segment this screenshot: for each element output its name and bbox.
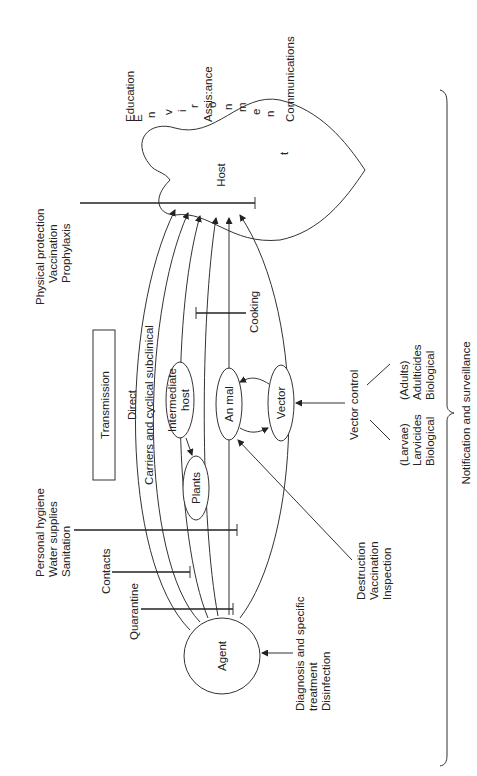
- svg-text:Personal hygiene: Personal hygiene: [34, 488, 46, 577]
- agent-label: Agent: [216, 640, 228, 671]
- cooking-label: Cooking: [248, 291, 260, 333]
- svg-text:(Larvae): (Larvae): [398, 423, 410, 466]
- svg-text:Larvicides: Larvicides: [411, 414, 423, 466]
- svg-text:Biological: Biological: [424, 417, 436, 466]
- vector-label: Vector: [275, 387, 287, 420]
- svg-text:Prophylaxis: Prophylaxis: [60, 223, 72, 283]
- communications-label: Communications: [284, 36, 296, 122]
- svg-text:Sanitation: Sanitation: [60, 526, 72, 577]
- svg-text:Physical protection: Physical protection: [34, 208, 46, 305]
- transmission-paths: [135, 210, 288, 630]
- svg-text:Vaccination: Vaccination: [47, 224, 59, 283]
- svg-text:treatment: treatment: [307, 662, 319, 711]
- svg-text:Destruction: Destruction: [355, 542, 367, 600]
- vector-control-label: Vector control: [348, 370, 360, 440]
- quarantine-label: Quarantine: [128, 583, 140, 640]
- svg-text:Vaccination: Vaccination: [368, 541, 380, 600]
- plants-label: Plants: [190, 472, 202, 504]
- svg-text:n: n: [264, 111, 276, 117]
- personal-hygiene-labels: Personal hygiene Water supplies Sanitati…: [34, 488, 72, 577]
- contacts-label: Contacts: [100, 548, 112, 594]
- transmission-diagram: Host E n v i r o n m e n t Education Ass…: [0, 0, 477, 776]
- diagram-canvas: Host E n v i r o n m e n t Education Ass…: [0, 0, 477, 776]
- svg-text:e: e: [250, 109, 262, 115]
- svg-text:(Adults): (Adults): [398, 360, 410, 400]
- svg-text:n: n: [145, 112, 157, 118]
- svg-text:Inspection: Inspection: [381, 548, 393, 600]
- education-label: Education: [124, 71, 136, 122]
- svg-text:m: m: [236, 102, 248, 112]
- host-shape: [142, 99, 365, 240]
- physical-protection-labels: Physical protection Vaccination Prophyla…: [34, 208, 72, 305]
- assistance-label: Assis:ance: [202, 66, 214, 122]
- svg-text:Water supplies: Water supplies: [47, 501, 59, 577]
- animal-label: An mal: [223, 386, 235, 422]
- adults-labels: (Adults) Adulticides Biological: [398, 344, 436, 400]
- notification-label: Notification and surveillance: [460, 341, 472, 484]
- notification-brace: [440, 90, 454, 766]
- agent-measures-labels: Diagnosis and specific treatment Disinfe…: [294, 596, 332, 711]
- svg-text:Adulticides: Adulticides: [411, 344, 423, 400]
- svg-text:v: v: [162, 109, 174, 115]
- transmission-label: Transmission: [99, 371, 111, 439]
- svg-text:n: n: [222, 104, 234, 110]
- svg-text:r: r: [188, 104, 200, 108]
- svg-text:Disinfection: Disinfection: [320, 652, 332, 711]
- svg-text:Biological: Biological: [424, 351, 436, 400]
- animal-measures-labels: Destruction Vaccination Inspection: [355, 541, 393, 600]
- svg-text:Diagnosis and specific: Diagnosis and specific: [294, 596, 306, 711]
- larvae-labels: (Larvae) Larvicides Biological: [398, 414, 436, 466]
- svg-text:i: i: [176, 109, 188, 112]
- host-label: Host: [215, 162, 227, 186]
